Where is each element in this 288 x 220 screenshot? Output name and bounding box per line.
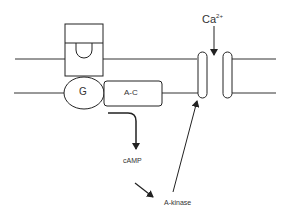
camp-to-kinase-arrow — [135, 183, 153, 197]
adenylate-cyclase-label: A-C — [124, 88, 138, 97]
kinase-to-channel-arrow — [173, 101, 197, 192]
calcium-symbol: Ca — [202, 13, 216, 25]
calcium-ion-label: Ca2+ — [202, 13, 223, 25]
a-kinase-label: A-kinase — [164, 199, 191, 206]
calcium-charge: 2+ — [216, 13, 223, 19]
membrane-diagram — [0, 0, 288, 220]
camp-label: cAMP — [123, 157, 142, 164]
camp-production-arrow — [108, 113, 136, 149]
receptor — [65, 24, 103, 76]
calcium-channel — [198, 52, 232, 98]
g-protein-label: G — [79, 86, 87, 97]
